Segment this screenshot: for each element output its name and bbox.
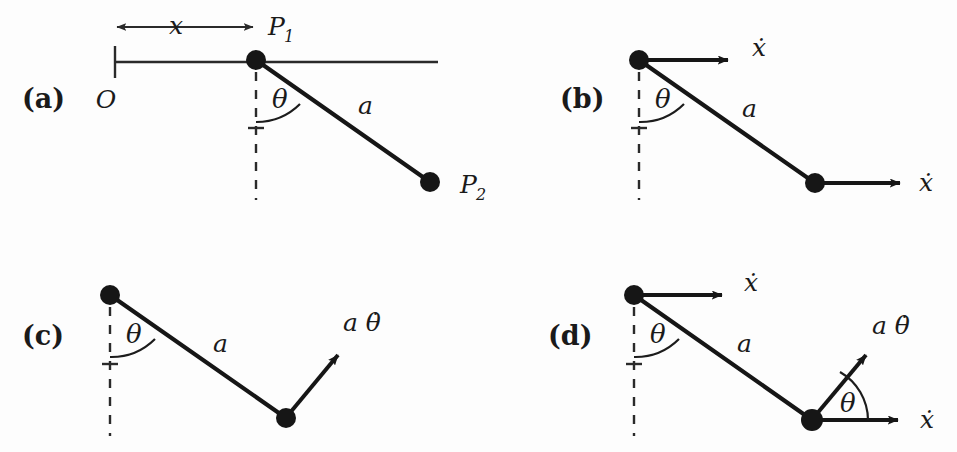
tangential-velocity-vector-c [289,355,338,414]
pivot-bob-d [624,285,644,305]
theta-label-b: θ [655,84,671,114]
tangential-velocity-label-c: a θ̇ [343,308,381,337]
tangential-velocity-label-d: a θ̇ [872,311,910,340]
rod-length-label-b: a [742,94,757,123]
rod-length-label-d: a [737,329,752,358]
pivot-bob-a [246,50,266,70]
pendulum-kinematics-figure: (a) x O θ a P 1 [0,0,957,452]
origin-label: O [96,85,117,114]
rod-d [634,295,812,420]
panel-b-label: (b) [560,83,604,114]
pivot-bob-b [629,50,649,70]
panel-b: (b) θ a ẋ ẋ [560,33,933,200]
rod-length-label-a: a [358,91,373,120]
theta-label-d: θ [650,319,666,349]
mass-bob-c [276,408,296,428]
rod-c [110,295,286,418]
pivot-velocity-label-d: ẋ [744,268,758,297]
x-displacement-label: x [169,11,183,40]
rod-a [256,60,430,182]
rod-length-label-c: a [213,329,228,358]
mass-point-label-a: P 2 [459,170,486,204]
bob-velocity-label-b: ẋ [919,168,933,197]
bob-velocity-label-d: ẋ [920,405,934,434]
pivot-point-label-a: P 1 [267,12,294,46]
panel-c: (c) θ a a θ̇ [22,285,381,436]
pivot-velocity-label-b: ẋ [752,33,766,62]
theta-label-bob-d: θ [840,388,856,418]
panel-c-label: (c) [22,320,64,351]
panel-a-label: (a) [22,83,65,114]
mass-bob-a [420,172,440,192]
pivot-bob-c [100,285,120,305]
panel-d-label: (d) [548,320,592,351]
diagram-canvas: (a) x O θ a P 1 [0,0,957,452]
panel-d: (d) θ a ẋ a θ̇ ẋ θ [548,268,934,436]
theta-label-c: θ [126,319,142,349]
panel-a: (a) x O θ a P 1 [22,11,486,204]
pivot-point-subscript-a: 1 [284,27,294,46]
mass-point-subscript-a: 2 [475,185,486,204]
mass-bob-d [801,409,823,431]
mass-bob-b [805,173,825,193]
rod-b [639,60,815,183]
theta-label-a: θ [272,84,288,114]
